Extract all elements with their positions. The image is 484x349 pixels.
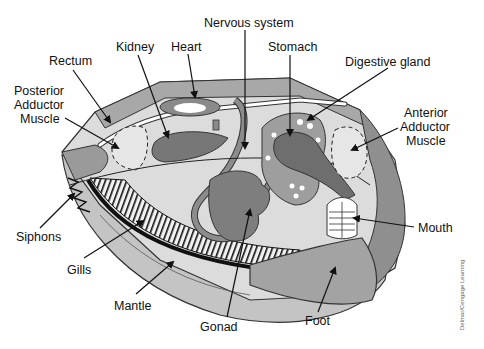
label-kidney: Kidney (116, 40, 155, 54)
label-posterior-adductor-3: Muscle (20, 112, 60, 126)
label-nervous-system: Nervous system (204, 16, 294, 30)
label-gonad: Gonad (200, 320, 238, 334)
label-gills: Gills (67, 263, 91, 277)
label-anterior-adductor-3: Muscle (406, 134, 446, 148)
label-siphons: Siphons (16, 230, 61, 244)
label-posterior-adductor-2: Adductor (14, 98, 64, 112)
anterior-adductor-muscle (332, 127, 367, 178)
label-heart: Heart (171, 40, 202, 54)
label-digestive-gland: Digestive gland (345, 55, 431, 69)
label-foot: Foot (305, 314, 331, 328)
label-stomach: Stomach (268, 40, 317, 54)
label-mouth: Mouth (418, 221, 453, 235)
label-anterior-adductor-2: Adductor (400, 120, 450, 134)
label-mantle: Mantle (114, 299, 152, 313)
clam-anatomy-diagram: Nervous system Kidney Heart Stomach Rect… (0, 0, 484, 349)
mouth-shape (327, 198, 357, 239)
label-rectum: Rectum (49, 54, 92, 68)
label-posterior-adductor-1: Posterior (14, 84, 64, 98)
credit-text: Delmar/Cengage Learning (459, 260, 465, 330)
label-anterior-adductor-1: Anterior (404, 106, 448, 120)
